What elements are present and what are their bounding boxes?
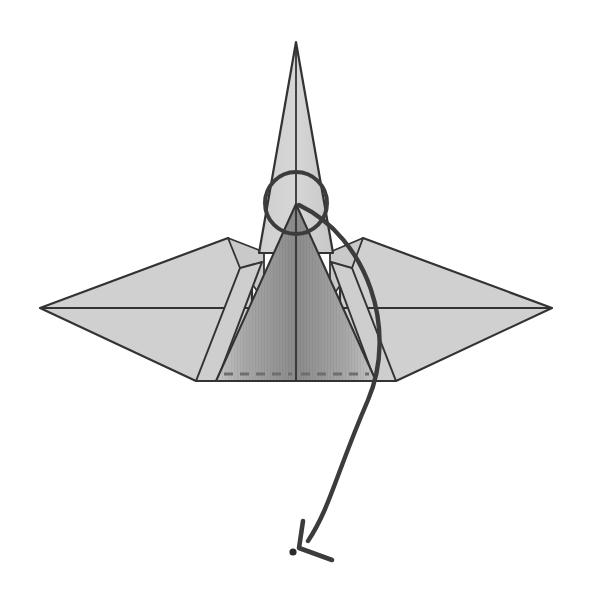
origami-figure: [0, 0, 592, 598]
target-point-dot: [289, 548, 296, 555]
origami-diagram-root: [0, 0, 592, 598]
